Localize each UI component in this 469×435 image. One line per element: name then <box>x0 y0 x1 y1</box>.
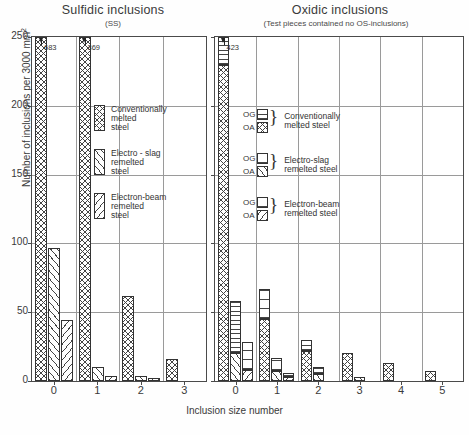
x-tick-label: 4 <box>398 384 404 396</box>
bar <box>122 296 134 381</box>
y-tick-mark <box>28 381 32 382</box>
bar-segment-oa <box>283 377 294 381</box>
bar <box>61 320 73 381</box>
bar-segment-oa <box>354 377 365 381</box>
chart-title-right: Oxidic inclusions <box>215 3 465 17</box>
legend-label-line: remelted steel <box>284 165 337 174</box>
bar-segment-oa <box>383 363 394 381</box>
y-tick-mark <box>211 312 215 313</box>
x-tick-label: 2 <box>138 384 144 396</box>
bar-segment-oa <box>230 353 241 381</box>
chart-subtitle-right: (Test pieces contained no OS-inclusions) <box>205 19 467 28</box>
bar-stacked <box>383 363 394 381</box>
bar-segment-oa <box>342 353 353 381</box>
legend-label-oa: OA <box>243 166 257 177</box>
legend-label-og: OG <box>243 153 257 164</box>
bar-stacked <box>425 371 436 381</box>
y-tick-mark <box>211 37 215 38</box>
legend-label: Electro - slagremeltedsteel <box>111 149 161 176</box>
legend-swatch <box>94 149 105 175</box>
bar-segment-og <box>271 358 282 372</box>
legend-component-labels: OGOA <box>243 153 257 177</box>
bar-stacked <box>242 342 253 381</box>
bar-stacked <box>271 358 282 381</box>
bar <box>166 359 178 381</box>
legend-label: Conventionallymelted steel <box>284 112 340 130</box>
bar-stacked <box>354 377 365 381</box>
legend-brace: } <box>269 151 278 170</box>
bar-segment-oa <box>301 351 312 381</box>
x-axis-label: Inclusion size number <box>0 405 469 416</box>
y-tick-label: 100 <box>11 236 28 247</box>
y-tick-mark <box>211 106 215 107</box>
bar-segment-oa <box>259 319 270 381</box>
legend-label-line: steel <box>111 167 161 176</box>
y-tick-mark <box>211 175 215 176</box>
bar-stacked <box>259 289 270 381</box>
y-tick-label: 0 <box>22 374 28 385</box>
x-tick-label: 3 <box>181 384 187 396</box>
bar-stacked <box>218 37 229 381</box>
y-tick-mark <box>28 312 32 313</box>
legend-item: Electro - slagremeltedsteel <box>94 149 161 176</box>
bar-segment-oa <box>425 371 436 381</box>
bar <box>79 37 91 381</box>
chart-title-left: Sulfidic inclusions <box>28 3 198 17</box>
legend-item: Conventionallymeltedsteel <box>94 105 167 132</box>
legend-label: Electro-slagremelted steel <box>284 156 337 174</box>
clipped-bar-value: 683 <box>44 43 57 52</box>
bar-stacked <box>342 353 353 381</box>
legend-brace: } <box>269 107 278 126</box>
gridline-vertical <box>380 37 381 381</box>
bar-stacked <box>313 367 324 381</box>
legend-swatch-og <box>257 153 268 164</box>
bar-segment-oa <box>218 65 229 381</box>
legend-label-og: OG <box>243 109 257 120</box>
bar-stacked <box>230 301 241 381</box>
figure: Sulfidic inclusions (SS) Oxidic inclusio… <box>0 0 469 435</box>
plot-area-left: 050100150200250Number of inclusions per … <box>31 36 207 382</box>
legend-label: Electron-beamremeltedsteel <box>111 193 166 220</box>
x-tick-label: 0 <box>233 384 239 396</box>
chart-subtitle-left: (SS) <box>28 19 198 28</box>
clipped-bar-value: 423 <box>227 43 240 52</box>
clipped-bar-arrow-icon <box>39 38 43 43</box>
bar <box>135 376 147 382</box>
bar-stacked <box>301 340 312 381</box>
legend-label: Conventionallymeltedsteel <box>111 105 167 132</box>
legend-item: OGOA}Conventionallymelted steel <box>243 109 340 133</box>
bar-segment-oa <box>313 374 324 381</box>
gridline-vertical <box>76 37 77 381</box>
plot-area-right: 042312345OGOA}Conventionallymelted steel… <box>214 36 464 382</box>
bar <box>48 248 60 381</box>
y-tick-label: 50 <box>17 305 28 316</box>
legend-swatch-stack <box>257 197 268 221</box>
x-tick-label: 1 <box>274 384 280 396</box>
legend-label-line: steel <box>111 211 166 220</box>
legend-label-line: steel <box>111 123 167 132</box>
gridline-vertical <box>422 37 423 381</box>
legend-swatch-og <box>257 197 268 208</box>
legend-swatch <box>94 105 105 131</box>
bar-stacked <box>283 373 294 381</box>
clipped-bar-arrow-icon <box>221 38 225 43</box>
bar-segment-og <box>242 342 253 370</box>
legend-swatch-stack <box>257 109 268 133</box>
legend-label-line: melted steel <box>284 121 340 130</box>
legend-label: Electron-beamremelted steel <box>284 200 339 218</box>
bar <box>35 37 47 381</box>
legend-item: OGOA}Electro-slagremelted steel <box>243 153 338 177</box>
bar-segment-og <box>230 301 241 353</box>
legend-item: Electron-beamremeltedsteel <box>94 193 166 220</box>
bar-segment-og <box>259 289 270 319</box>
bar-segment-og <box>313 367 324 374</box>
y-axis-label: Number of inclusions per 3000 mm2 <box>20 28 32 187</box>
legend-component-labels: OGOA <box>243 109 257 133</box>
legend-item: OGOA}Electron-beamremelted steel <box>243 197 339 221</box>
bar-segment-og <box>301 340 312 351</box>
x-tick-label: 0 <box>51 384 57 396</box>
bar <box>148 378 160 381</box>
clipped-bar-value: 369 <box>88 43 101 52</box>
bar-segment-oa <box>242 370 253 381</box>
legend-swatch-oa <box>257 166 268 177</box>
